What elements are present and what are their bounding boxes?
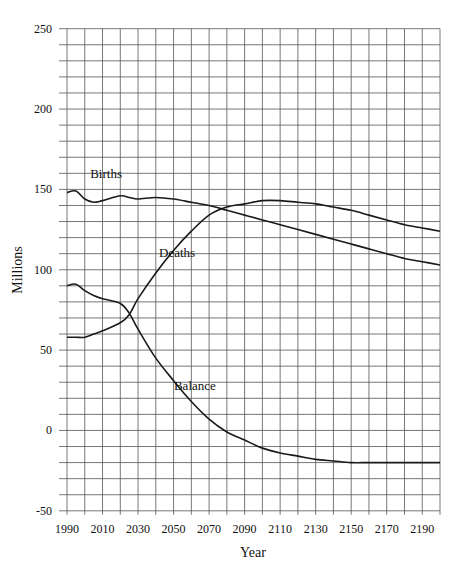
y-axis-title: Millions: [10, 246, 25, 293]
y-tick-label: 250: [34, 22, 52, 36]
y-tick-label: 100: [34, 263, 52, 277]
x-tick-label: 2130: [304, 522, 328, 536]
label-balance: Balance: [174, 378, 216, 393]
x-tick-label: 2090: [233, 522, 257, 536]
x-tick-label: 2150: [339, 522, 363, 536]
x-tick-label: 2170: [375, 522, 399, 536]
y-axis-ticks: 250200150100500-50: [34, 22, 52, 518]
series-deaths-line: [67, 200, 440, 337]
x-tick-label: 2010: [91, 522, 115, 536]
y-tick-label: 200: [34, 102, 52, 116]
x-tick-label: 2030: [126, 522, 150, 536]
series-labels: BirthsDeathsBalance: [90, 166, 216, 393]
x-axis-ticks: 1990201020302050207020902110213021502170…: [55, 522, 434, 536]
x-tick-label: 1990: [55, 522, 79, 536]
y-tick-label: -50: [36, 504, 52, 518]
x-tick-label: 2050: [162, 522, 186, 536]
x-tick-label: 2070: [197, 522, 221, 536]
label-births: Births: [90, 166, 122, 181]
x-tick-label: 2190: [410, 522, 434, 536]
x-tick-label: 2110: [268, 522, 292, 536]
x-axis-title: Year: [240, 545, 266, 560]
y-tick-label: 150: [34, 182, 52, 196]
y-tick-label: 50: [40, 343, 52, 357]
series-balance-line: [67, 284, 440, 463]
line-chart: 250200150100500-50 199020102030205020702…: [0, 0, 457, 574]
series-lines: [67, 191, 440, 463]
y-tick-label: 0: [46, 423, 52, 437]
label-deaths: Deaths: [159, 245, 195, 260]
